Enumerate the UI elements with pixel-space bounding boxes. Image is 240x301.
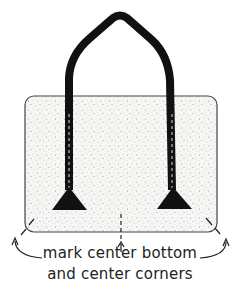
bag-body (25, 96, 217, 232)
caption-line-1: mark center bottom (0, 244, 240, 262)
caption-line-2: and center corners (0, 265, 240, 283)
